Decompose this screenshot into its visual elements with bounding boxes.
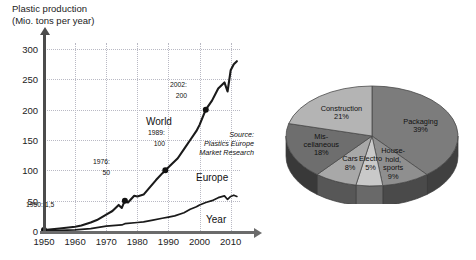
chart-page: Plastic production (Mio. tons per year) … <box>0 0 476 260</box>
pie-label-construction: Construction21% <box>321 105 363 122</box>
pie-label-percent: 18% <box>304 150 339 158</box>
series-label-world: World <box>146 116 172 127</box>
callout-2002-value: 200 <box>155 92 187 100</box>
y-tick-label: 150 <box>8 135 38 146</box>
pie-chart: Packaging39%House-hold,sports9%Electro5%… <box>268 74 476 204</box>
pie-label-percent: 21% <box>321 113 363 121</box>
pie-label-miscellaneous: Mis-cellaneous18% <box>304 133 339 158</box>
series-line-europe <box>44 195 237 230</box>
callout-1950: 1950: 1,5 <box>26 201 54 209</box>
source-line-1: Source: <box>146 130 254 139</box>
x-tick-label: 1960 <box>65 236 86 247</box>
callout-2002-year: 2002: <box>155 81 187 89</box>
x-tick-label: 1980 <box>127 236 148 247</box>
x-axis-tick-labels: 1950196019701980199020002010 <box>20 236 260 254</box>
y-tick-label: 100 <box>8 165 38 176</box>
series-label-europe: Europe <box>196 172 228 183</box>
pie-label-percent: 5% <box>359 163 382 171</box>
line-chart: 050100150200250300 195019601970198019902… <box>0 24 262 260</box>
callout-1976-value: 50 <box>78 169 110 177</box>
pie-label-electro: Electro5% <box>359 155 382 172</box>
y-tick-label: 200 <box>8 104 38 115</box>
pie-label-percent: 39% <box>403 126 438 134</box>
pie-label-household-sports: House-hold,sports9% <box>381 148 405 182</box>
annotation-marker <box>203 107 209 113</box>
x-axis <box>40 231 255 234</box>
title-line-1: Plastic production <box>12 3 94 15</box>
pie-label-packaging: Packaging39% <box>403 117 438 134</box>
pie-slice-side-electro <box>356 185 383 204</box>
source-line-2: Plastics Europe <box>146 139 254 148</box>
pie-label-percent: 8% <box>342 163 358 171</box>
source-line-3: Market Research <box>146 148 254 157</box>
x-tick-label: 1990 <box>158 236 179 247</box>
annotation-marker <box>162 167 168 173</box>
x-tick-label: 2000 <box>189 236 210 247</box>
x-tick-label: 2010 <box>220 236 241 247</box>
y-tick-label: 300 <box>8 44 38 55</box>
x-axis-title: Year <box>206 214 226 225</box>
callout-1976-year: 1976: <box>78 158 110 166</box>
y-tick-label: 0 <box>8 226 38 237</box>
x-tick-label: 1950 <box>33 236 54 247</box>
pie-slices-layer <box>268 74 476 204</box>
pie-label-cars: Cars8% <box>342 155 358 172</box>
pie-label-percent: 9% <box>381 173 405 181</box>
x-tick-label: 1970 <box>96 236 117 247</box>
annotation-marker <box>122 198 128 204</box>
y-tick-label: 250 <box>8 74 38 85</box>
